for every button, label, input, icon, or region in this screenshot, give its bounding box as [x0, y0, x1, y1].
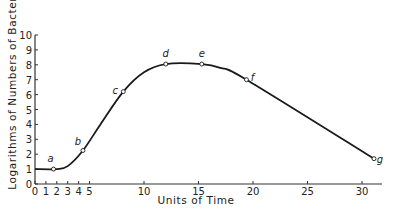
point-label-b: b	[75, 136, 81, 147]
point-label-g: g	[377, 154, 383, 165]
y-tick-label: 9	[26, 45, 32, 56]
point-marker-f	[244, 78, 248, 82]
point-marker-e	[200, 62, 204, 66]
point-marker-b	[81, 148, 85, 152]
x-tick-label: 5	[86, 186, 92, 197]
y-tick-label: 3	[26, 134, 32, 145]
point-marker-a	[52, 167, 56, 171]
point-marker-g	[372, 157, 376, 161]
x-tick-label: 20	[247, 186, 260, 197]
point-marker-d	[164, 62, 168, 66]
x-tick-label: 0	[32, 186, 38, 197]
point-label-d: d	[163, 48, 170, 59]
point-label-c: c	[113, 85, 119, 96]
x-tick-label: 1	[43, 186, 49, 197]
x-tick-label: 10	[138, 186, 151, 197]
x-tick-label: 3	[65, 186, 71, 197]
y-tick-label: 2	[26, 149, 32, 160]
y-tick-label: 4	[26, 119, 32, 130]
x-axis-title: Units of Time	[157, 194, 234, 206]
y-tick-label: 7	[26, 75, 32, 86]
y-tick-label: 1	[26, 164, 32, 175]
x-tick-label: 2	[54, 186, 60, 197]
x-tick-label: 25	[301, 186, 314, 197]
y-tick-label: 8	[26, 60, 32, 71]
bacterial-growth-chart: 0123451015202530012345678910 abcdefg Uni…	[0, 0, 396, 217]
y-axis-title: Logarithms of Numbers of Bacteria	[6, 0, 18, 190]
y-tick-label: 6	[26, 90, 32, 101]
growth-curve	[35, 63, 374, 169]
point-label-e: e	[199, 48, 205, 59]
growth-curve-line	[35, 63, 374, 169]
x-tick-label: 4	[75, 186, 81, 197]
point-marker-c	[121, 90, 125, 94]
point-label-f: f	[251, 72, 256, 83]
y-tick-label: 5	[26, 105, 32, 116]
point-label-a: a	[47, 153, 53, 164]
y-tick-label: 0	[26, 179, 32, 190]
x-tick-label: 30	[356, 186, 369, 197]
y-tick-label: 10	[19, 30, 32, 41]
